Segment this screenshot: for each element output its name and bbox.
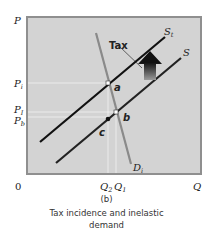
caption-line-2: demand <box>0 219 213 232</box>
point-c-marker <box>106 117 111 122</box>
point-c-label: c <box>99 127 105 138</box>
supply-label: S <box>183 47 190 58</box>
origin-label: 0 <box>15 181 21 192</box>
y-axis-label: P <box>13 15 21 26</box>
point-a-label: a <box>114 82 121 93</box>
point-b-label: b <box>123 112 130 123</box>
point-a-marker <box>106 81 110 85</box>
y-tick-p-i: Pi <box>13 78 23 91</box>
x-axis-label: Q <box>193 181 201 192</box>
panel-label: (b) <box>0 193 213 206</box>
point-b-marker <box>114 110 118 114</box>
tax-label: Tax <box>109 40 128 51</box>
